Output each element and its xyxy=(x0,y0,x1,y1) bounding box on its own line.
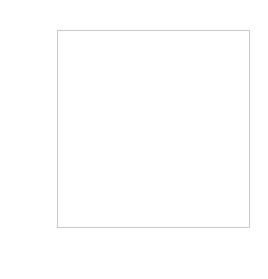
plot-canvas xyxy=(0,0,268,279)
normal-probability-plot xyxy=(0,0,268,279)
